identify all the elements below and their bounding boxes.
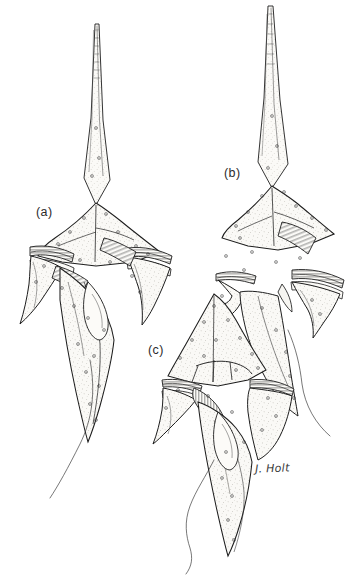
artist-signature: J. Holt [255, 461, 290, 475]
illustration-plate [0, 0, 360, 581]
figure-label-a: (a) [36, 205, 52, 219]
figure-label-c: (c) [148, 343, 164, 357]
figure-label-b: (b) [224, 166, 240, 180]
